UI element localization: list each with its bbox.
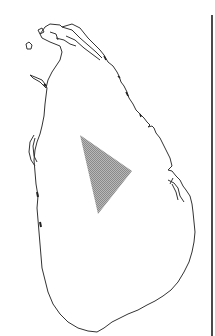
island-map <box>0 0 215 336</box>
highlight-region <box>80 135 132 214</box>
frame-border-right <box>211 15 213 336</box>
island-islet <box>26 42 32 49</box>
island-islet <box>38 28 44 34</box>
trinco-bay <box>168 178 184 202</box>
puttalam-lagoon <box>29 135 37 166</box>
